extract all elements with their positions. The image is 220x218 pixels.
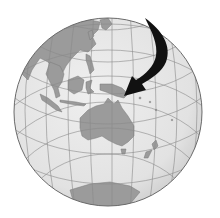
- globe-illustration: [0, 0, 220, 218]
